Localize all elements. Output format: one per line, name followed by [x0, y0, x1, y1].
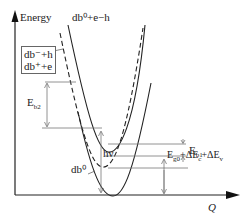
- legend-line-2: db⁺+e: [24, 60, 53, 72]
- gap-label: Eg0+ΔEc+ΔEv: [167, 150, 223, 163]
- db0-curve: [78, 83, 151, 196]
- eb2-label: Eb2: [27, 97, 41, 111]
- photon-label: hν: [103, 148, 113, 159]
- charged-curve-legend: db⁻+h db⁺+e: [21, 46, 56, 74]
- y-axis-label: Energy: [20, 12, 52, 23]
- exciton-curve: [68, 25, 145, 152]
- legend-line-1: db⁻+h: [24, 48, 53, 60]
- y-axis-arrow-icon: [12, 10, 19, 22]
- db0-label: db⁰: [71, 164, 86, 175]
- x-axis-label: Q: [208, 202, 216, 213]
- exciton-curve-label: db⁰+e−h: [72, 12, 110, 23]
- x-axis-arrow-icon: [226, 191, 240, 199]
- diagram-canvas: [0, 0, 249, 224]
